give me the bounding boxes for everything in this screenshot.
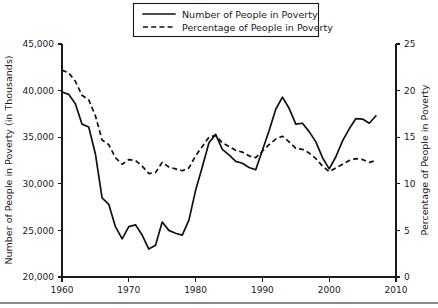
- left-axis-title: Number of People in Poverty (in Thousand…: [3, 55, 14, 264]
- left-tick-label: 25,000: [23, 226, 55, 236]
- right-tick-label: 5: [404, 226, 410, 236]
- chart-legend: Number of People in Poverty Percentage o…: [134, 4, 334, 37]
- right-tick-label: 25: [404, 39, 415, 49]
- legend-label-percentage-of-people: Percentage of People in Poverty: [182, 22, 333, 33]
- x-tick-label: 2000: [318, 285, 341, 295]
- right-tick-label: 10: [404, 179, 416, 189]
- x-tick-label: 1970: [117, 285, 140, 295]
- x-axis-ticks: 196019701980199020002010: [51, 277, 408, 295]
- chart-canvas: Number of People in Poverty Percentage o…: [0, 0, 438, 308]
- left-tick-label: 40,000: [23, 86, 55, 96]
- legend-label-number-of-people: Number of People in Poverty: [182, 9, 318, 20]
- left-tick-label: 30,000: [23, 179, 55, 189]
- left-axis-ticks: 20,00025,00030,00035,00040,00045,000: [23, 39, 63, 282]
- left-tick-label: 35,000: [23, 132, 55, 142]
- right-tick-label: 0: [404, 272, 410, 282]
- right-tick-label: 15: [404, 132, 415, 142]
- left-tick-label: 20,000: [23, 272, 55, 282]
- right-tick-label: 20: [404, 86, 416, 96]
- x-tick-label: 1990: [251, 285, 274, 295]
- series-line-percentage-of-people: [62, 70, 376, 173]
- poverty-chart-figure: Number of People in Poverty Percentage o…: [0, 0, 438, 308]
- x-tick-label: 1980: [184, 285, 207, 295]
- x-tick-label: 2010: [385, 285, 408, 295]
- right-axis-title: Percentage of People in Poverty: [419, 84, 430, 235]
- x-tick-label: 1960: [51, 285, 74, 295]
- right-axis-ticks: 0510152025: [396, 39, 416, 282]
- left-tick-label: 45,000: [23, 39, 55, 49]
